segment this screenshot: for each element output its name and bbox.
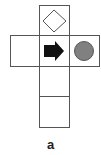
- circle-icon: [75, 42, 94, 61]
- diamond-icon: [43, 10, 66, 32]
- arrow-right-icon: [44, 41, 64, 61]
- figure-label: a: [0, 137, 101, 152]
